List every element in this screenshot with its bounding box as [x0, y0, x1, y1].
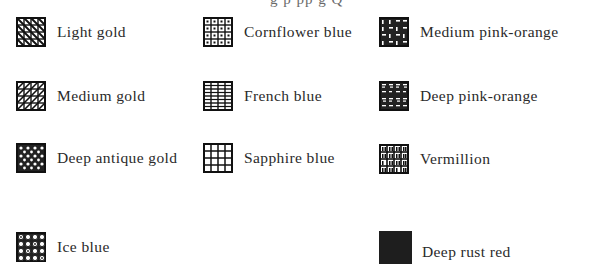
legend-label: Light gold: [57, 23, 126, 41]
legend-label: Deep rust red: [422, 243, 511, 261]
french-blue-swatch-icon: [203, 81, 233, 111]
cornflower-blue-swatch-icon: [203, 17, 233, 47]
cropped-header-text: g p pp g Q: [270, 0, 343, 8]
deep-rust-red-swatch-icon: [379, 231, 412, 264]
legend-label: Ice blue: [57, 238, 110, 256]
legend-label: Deep pink-orange: [420, 87, 538, 105]
legend-item-deep-rust-red: Deep rust red: [379, 231, 511, 264]
medium-pink-orange-swatch-icon: [379, 17, 409, 47]
legend-label: Cornflower blue: [244, 23, 352, 41]
legend-label: Deep antique gold: [57, 149, 177, 167]
legend-label: Medium pink-orange: [420, 23, 559, 41]
legend-item-medium-gold: Medium gold: [16, 81, 145, 111]
vermillion-swatch-icon: [379, 144, 409, 174]
legend-item-ice-blue: Ice blue: [16, 232, 110, 262]
legend-label: Sapphire blue: [244, 149, 335, 167]
deep-antique-gold-swatch-icon: [16, 143, 46, 173]
medium-gold-swatch-icon: [16, 81, 46, 111]
legend-item-vermillion: Vermillion: [379, 144, 490, 174]
legend-item-sapphire-blue: Sapphire blue: [203, 143, 335, 173]
legend-label: Medium gold: [57, 87, 145, 105]
legend-label: French blue: [244, 87, 322, 105]
light-gold-swatch-icon: [16, 17, 46, 47]
legend-item-french-blue: French blue: [203, 81, 322, 111]
legend-label: Vermillion: [420, 150, 490, 168]
legend-item-light-gold: Light gold: [16, 17, 126, 47]
legend-item-deep-pink-orange: Deep pink-orange: [379, 81, 538, 111]
ice-blue-swatch-icon: [16, 232, 46, 262]
deep-pink-orange-swatch-icon: [379, 81, 409, 111]
legend-item-deep-antique-gold: Deep antique gold: [16, 143, 177, 173]
sapphire-blue-swatch-icon: [203, 143, 233, 173]
legend-item-medium-pink-orange: Medium pink-orange: [379, 17, 559, 47]
legend-item-cornflower-blue: Cornflower blue: [203, 17, 352, 47]
